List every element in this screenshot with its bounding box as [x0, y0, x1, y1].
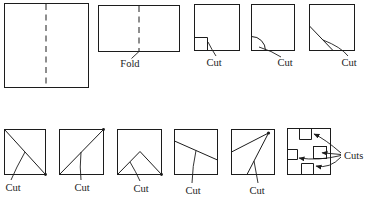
- cut-leader-line: [80, 152, 81, 180]
- slant-cut-figure: Cut: [175, 130, 218, 197]
- cut-leader-line: [254, 161, 258, 183]
- cut-caption: Cut: [5, 182, 20, 193]
- spike-upper-cut-line: [232, 133, 269, 152]
- diagonal-corner-cut-figure: Cut: [310, 5, 357, 69]
- diagonal-cut-line: [310, 26, 334, 51]
- bottom-notch-cut-line: [302, 164, 314, 175]
- cuts-leader-left: [299, 156, 341, 160]
- corner-notch-cut-figure: Cut: [195, 5, 240, 69]
- cut-leader-line: [11, 152, 25, 180]
- tent-cut-figure: Cut: [118, 130, 163, 195]
- paper-square: [252, 5, 295, 51]
- diagonal-tlbr-cut-figure: Cut: [5, 130, 47, 194]
- center-hole-cut: [314, 147, 327, 159]
- cuts-caption: Cuts: [344, 150, 363, 161]
- cut-leader-line: [323, 40, 348, 56]
- cut-caption: Cut: [133, 183, 148, 194]
- left-notch-cut-line: [288, 150, 298, 160]
- diagonal-bltr-cut-figure: Cut: [60, 128, 105, 193]
- paper-square: [288, 129, 331, 175]
- cut-caption: Cut: [74, 182, 89, 193]
- cut-endpoint-dot: [44, 173, 47, 176]
- corner-arc-cut-figure: Cut: [252, 5, 295, 69]
- cut-endpoint-dot: [160, 173, 163, 176]
- cut-leader-line: [192, 151, 196, 184]
- cut-leader-line: [130, 162, 140, 181]
- cut-leader-line: [208, 42, 216, 56]
- cut-caption: Cut: [277, 57, 292, 68]
- fold-caption: Fold: [120, 58, 140, 69]
- cuts-leader-hole: [322, 153, 341, 155]
- spike-cut-figure: Cut: [232, 130, 275, 197]
- multi-notch-cuts-figure: Cuts: [288, 129, 364, 175]
- top-notch-cut-line: [300, 129, 312, 140]
- cut-endpoint-dot: [102, 128, 105, 131]
- paper-square: [232, 130, 275, 175]
- cut-caption: Cut: [185, 185, 200, 196]
- cuts-leader-top: [314, 134, 341, 153]
- diagonal-cut-line: [60, 130, 104, 175]
- unfolded-square-figure: [5, 4, 89, 88]
- cut-leader-line: [259, 47, 281, 57]
- cut-caption: Cut: [206, 57, 221, 68]
- spike-lower-cut-line: [247, 133, 269, 175]
- square-notch-cut-line: [195, 38, 208, 51]
- diagram-canvas: Fold Cut Cut Cut Cut: [0, 0, 372, 208]
- paper-square: [195, 5, 240, 51]
- tent-cut-line: [118, 152, 162, 175]
- paper-folding-cutting-diagram: Fold Cut Cut Cut Cut: [0, 0, 372, 208]
- cut-caption: Cut: [341, 57, 356, 68]
- folded-rect-figure: Fold: [99, 6, 180, 70]
- cut-caption: Cut: [249, 185, 264, 196]
- cut-endpoint-dot: [267, 131, 270, 134]
